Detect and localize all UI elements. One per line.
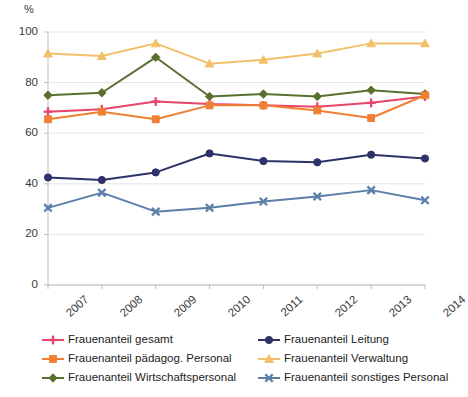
legend-item: Frauenanteil Verwaltung bbox=[258, 349, 448, 368]
legend-item-label: Frauenanteil pädagog. Personal bbox=[68, 352, 232, 365]
y-tick-label: 20 bbox=[4, 227, 38, 239]
y-tick-label: 40 bbox=[4, 177, 38, 189]
series-2 bbox=[44, 53, 429, 101]
y-tick-label: 100 bbox=[4, 25, 38, 37]
gridlines bbox=[48, 32, 425, 285]
chart-legend: Frauenanteil gesamtFrauenanteil pädagog.… bbox=[0, 330, 457, 392]
y-tick-label: 60 bbox=[4, 126, 38, 138]
legend-item: Frauenanteil gesamt bbox=[42, 330, 236, 349]
line-with-plus-marker-icon bbox=[42, 334, 64, 346]
legend-item-label: Frauenanteil Leitung bbox=[284, 333, 389, 346]
legend-item-label: Frauenanteil Verwaltung bbox=[284, 352, 408, 365]
legend-item: Frauenanteil Leitung bbox=[258, 330, 448, 349]
legend-item: Frauenanteil Wirtschaftspersonal bbox=[42, 368, 236, 387]
legend-item-label: Frauenanteil gesamt bbox=[68, 333, 173, 346]
plot-area bbox=[0, 0, 457, 320]
axis-lines bbox=[44, 32, 425, 289]
y-tick-label: 0 bbox=[4, 278, 38, 290]
line-with-circle-marker-icon bbox=[258, 334, 280, 346]
series-5 bbox=[44, 186, 428, 215]
legend-item: Frauenanteil sonstiges Personal bbox=[258, 368, 448, 387]
line-with-square-marker-icon bbox=[42, 353, 64, 365]
line-with-triangle-marker-icon bbox=[258, 353, 280, 365]
series-3 bbox=[44, 150, 428, 184]
legend-item: Frauenanteil pädagog. Personal bbox=[42, 349, 236, 368]
line-with-x-marker-icon bbox=[258, 372, 280, 384]
line-with-diamond-marker-icon bbox=[42, 372, 64, 384]
plot-svg bbox=[0, 0, 457, 320]
legend-item-label: Frauenanteil sonstiges Personal bbox=[284, 371, 448, 384]
legend-column-left: Frauenanteil gesamtFrauenanteil pädagog.… bbox=[42, 330, 236, 387]
legend-item-label: Frauenanteil Wirtschaftspersonal bbox=[68, 371, 236, 384]
series-4 bbox=[44, 39, 430, 67]
legend-column-right: Frauenanteil LeitungFrauenanteil Verwalt… bbox=[258, 330, 448, 387]
y-tick-label: 80 bbox=[4, 76, 38, 88]
